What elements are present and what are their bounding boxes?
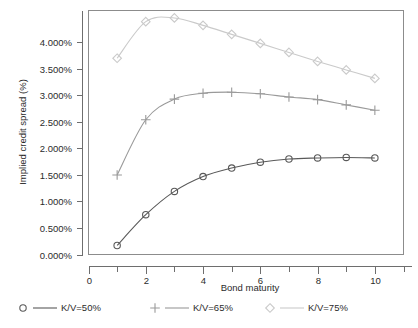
- y-tick-label: 3.500%: [40, 64, 73, 75]
- series-k-v-75-: [113, 14, 379, 83]
- legend-entry-k-v-75-[interactable]: K/V=75%: [266, 302, 349, 313]
- diamond-marker: [113, 54, 122, 63]
- y-tick-label: 2.000%: [40, 143, 73, 154]
- x-tick-label: 4: [201, 275, 206, 286]
- chart-legend: K/V=50%K/V=65%K/V=75%: [20, 302, 349, 313]
- legend-label: K/V=75%: [308, 302, 348, 313]
- x-tick-label: 2: [144, 275, 149, 286]
- y-tick-label: 0.500%: [40, 223, 73, 234]
- series-k-v-65-: [112, 87, 379, 179]
- legend-label: K/V=65%: [193, 302, 233, 313]
- legend-label: K/V=50%: [61, 302, 101, 313]
- plus-marker: [313, 95, 323, 105]
- plus-marker: [198, 88, 208, 98]
- series-line: [117, 157, 375, 245]
- diamond-marker: [371, 74, 380, 83]
- series-line: [117, 17, 375, 78]
- y-axis-tick-labels: 0.000%0.500%1.000%1.500%2.000%2.500%3.00…: [40, 37, 73, 261]
- circle-marker-icon: [20, 305, 26, 311]
- x-axis-title: Bond maturity: [221, 282, 280, 293]
- plus-marker: [227, 87, 237, 97]
- series-k-v-50-: [114, 154, 378, 248]
- circle-marker: [114, 242, 120, 248]
- credit-spread-chart-figure: 0.000%0.500%1.000%1.500%2.000%2.500%3.00…: [0, 0, 418, 328]
- plus-marker: [284, 92, 294, 102]
- diamond-marker-icon: [266, 304, 275, 313]
- plus-marker: [256, 89, 266, 99]
- y-tick-label: 4.000%: [40, 37, 73, 48]
- data-series-layer: [112, 14, 379, 249]
- y-axis-ticks: [77, 43, 83, 256]
- plus-marker: [112, 170, 122, 180]
- y-tick-label: 1.000%: [40, 196, 73, 207]
- y-tick-label: 3.000%: [40, 90, 73, 101]
- x-tick-label: 10: [370, 275, 381, 286]
- x-tick-label: 0: [87, 275, 92, 286]
- plus-marker: [341, 100, 351, 110]
- chart-canvas: 0.000%0.500%1.000%1.500%2.000%2.500%3.00…: [0, 0, 418, 328]
- legend-entry-k-v-65-[interactable]: K/V=65%: [150, 302, 233, 313]
- plot-area-border: [89, 11, 404, 255]
- y-tick-label: 2.500%: [40, 117, 73, 128]
- y-tick-label: 0.000%: [40, 250, 73, 261]
- y-axis-title: Implied credit spread (%): [17, 79, 28, 185]
- x-tick-label: 8: [316, 275, 321, 286]
- plus-marker: [370, 105, 380, 115]
- x-axis-ticks: [90, 267, 405, 274]
- legend-entry-k-v-50-[interactable]: K/V=50%: [20, 302, 102, 313]
- series-line: [117, 92, 375, 175]
- plus-marker-icon: [150, 303, 160, 313]
- y-tick-label: 1.500%: [40, 170, 73, 181]
- plus-marker: [170, 94, 180, 104]
